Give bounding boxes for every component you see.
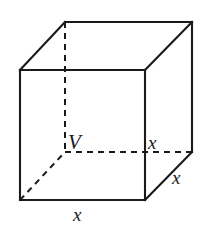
dimension-label-bottom: x	[73, 205, 81, 224]
cube-figure: V x x x	[0, 0, 206, 232]
dimension-label-depth: x	[172, 168, 180, 187]
depth-edge-bottom-right	[145, 152, 192, 200]
depth-edge-top-right	[145, 22, 192, 70]
depth-edge-top-left	[20, 22, 65, 70]
hidden-edge-depth	[20, 152, 65, 200]
cube-drawing	[0, 0, 206, 232]
dimension-label-right-vertical: x	[148, 133, 156, 152]
vertex-label-v: V	[68, 132, 81, 153]
